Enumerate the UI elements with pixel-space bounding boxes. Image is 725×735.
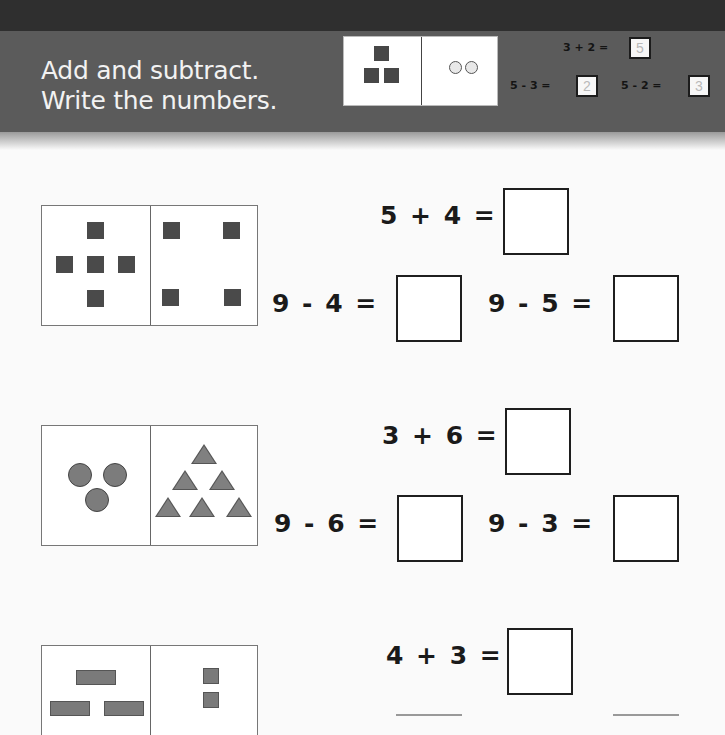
- circle-icon: [449, 61, 462, 74]
- square-icon: [384, 68, 399, 83]
- example-card: [343, 36, 498, 106]
- triangle-icon: [226, 497, 252, 517]
- problem-1-answer-box-3[interactable]: [613, 275, 679, 342]
- triangle-icon: [172, 470, 198, 490]
- rectangle-icon: [104, 701, 144, 716]
- square-icon: [374, 46, 389, 61]
- triangle-icon: [191, 444, 217, 464]
- circle-icon: [103, 463, 127, 487]
- rectangle-icon: [76, 670, 116, 685]
- square-icon: [162, 289, 179, 306]
- problem-2-subtraction-2: 9 - 3 =: [488, 509, 594, 538]
- example-answer-box: 2: [576, 75, 598, 97]
- square-icon: [87, 290, 104, 307]
- example-divider: [421, 37, 422, 105]
- square-icon: [223, 222, 240, 239]
- problem-1-subtraction-1: 9 - 4 =: [272, 289, 378, 318]
- square-icon: [118, 256, 135, 273]
- card-divider: [150, 646, 151, 735]
- circle-icon: [68, 463, 92, 487]
- triangle-icon: [189, 497, 215, 517]
- example-equation: 3 + 2 =: [563, 41, 608, 54]
- problem-1-addition: 5 + 4 =: [380, 201, 497, 230]
- rectangle-icon: [50, 701, 90, 716]
- problem-2-answer-box-1[interactable]: [505, 408, 571, 475]
- problem-2-addition: 3 + 6 =: [382, 421, 499, 450]
- example-answer-box: 3: [688, 75, 710, 97]
- small-rectangle-icon: [203, 668, 219, 684]
- problem-3-answer-box-1[interactable]: [507, 628, 573, 695]
- problem-1-picture-card: [41, 205, 258, 326]
- square-icon: [163, 222, 180, 239]
- circle-icon: [465, 61, 478, 74]
- problem-1-answer-box-1[interactable]: [503, 188, 569, 255]
- problem-1-answer-box-2[interactable]: [396, 275, 462, 342]
- problem-2-answer-box-3[interactable]: [613, 495, 679, 562]
- problem-2-picture-card: [41, 425, 258, 546]
- square-icon: [56, 256, 73, 273]
- problem-2-subtraction-1: 9 - 6 =: [274, 509, 380, 538]
- square-icon: [87, 222, 104, 239]
- small-rectangle-icon: [203, 692, 219, 708]
- instruction-line-2: Write the numbers.: [41, 86, 277, 116]
- problem-3-answer-box-3-edge: [613, 714, 679, 716]
- problem-3-picture-card: [41, 645, 258, 735]
- example-equation: 5 - 3 =: [510, 79, 551, 92]
- triangle-icon: [155, 497, 181, 517]
- square-icon: [87, 256, 104, 273]
- header-shadow: [0, 132, 725, 150]
- problem-3-answer-box-2-edge: [396, 714, 462, 716]
- instruction-line-1: Add and subtract.: [41, 56, 259, 86]
- problem-1-subtraction-2: 9 - 5 =: [488, 289, 594, 318]
- circle-icon: [85, 488, 109, 512]
- triangle-icon: [209, 470, 235, 490]
- card-divider: [150, 206, 151, 325]
- problem-2-answer-box-2[interactable]: [397, 495, 463, 562]
- top-dark-strip: [0, 0, 725, 31]
- example-equation: 5 - 2 =: [621, 79, 662, 92]
- card-divider: [150, 426, 151, 545]
- square-icon: [224, 289, 241, 306]
- problem-3-addition: 4 + 3 =: [386, 641, 503, 670]
- example-answer-box: 5: [629, 37, 651, 59]
- square-icon: [364, 68, 379, 83]
